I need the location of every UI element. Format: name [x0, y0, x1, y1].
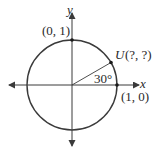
point-right-label: (1, 0)	[121, 89, 149, 104]
point-top-label: (0, 1)	[42, 23, 70, 38]
unit-circle-diagram: y x (0, 1) (1, 0) U (?, ?) 30°	[0, 0, 156, 154]
point-top-dot	[70, 38, 74, 42]
point-u-coords: (?, ?)	[125, 47, 152, 62]
y-axis-label: y	[65, 2, 73, 17]
point-u-dot	[109, 61, 113, 65]
point-right-dot	[115, 83, 119, 87]
angle-label: 30°	[94, 71, 112, 86]
